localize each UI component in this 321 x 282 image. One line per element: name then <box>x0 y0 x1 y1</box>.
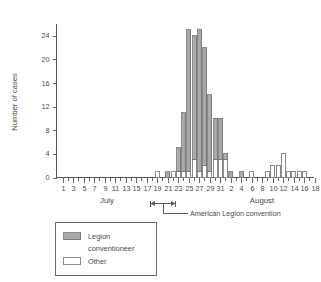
bar-segment-other <box>214 160 218 178</box>
bar-segment-conventioneer <box>177 148 181 172</box>
x-tick-label: 14 <box>291 184 299 193</box>
bar-segment-conventioneer <box>187 30 191 172</box>
x-tick-label: 19 <box>154 184 162 193</box>
chart-legend: Legion conventioneer Other <box>56 223 157 276</box>
bar-segment-other <box>224 160 228 178</box>
bar-segment-other <box>287 172 291 178</box>
bar-segment-conventioneer <box>214 118 218 159</box>
bar-segment-conventioneer <box>198 30 202 172</box>
y-axis-ticks: 04812162024 <box>42 31 57 182</box>
y-tick-label: 4 <box>46 149 50 158</box>
y-tick-label: 24 <box>42 31 50 40</box>
epidemic-curve-chart: Number of cases 04812162024 135791113151… <box>0 0 321 282</box>
bar-segment-conventioneer <box>182 113 186 172</box>
convention-bracket <box>151 201 189 214</box>
bar-segment-other <box>208 172 212 178</box>
legend-swatch-conventioneer <box>64 233 81 240</box>
legend-label-conventioneer-line1: Legion <box>88 232 110 241</box>
convention-annotation-label: American Legion convention <box>190 209 281 218</box>
x-tick-label: 5 <box>83 184 87 193</box>
x-tick-label: 23 <box>175 184 183 193</box>
bar-segment-other <box>271 166 275 178</box>
bar-segment-other <box>266 172 270 178</box>
bar-segment-conventioneer <box>224 154 228 160</box>
bar-segment-conventioneer <box>203 48 207 166</box>
x-tick-label: 11 <box>112 184 119 193</box>
legend-label-conventioneer-line2: conventioneer <box>88 244 135 253</box>
month-label-august: August <box>250 196 275 205</box>
x-tick-label: 27 <box>196 184 204 193</box>
bar-segment-other <box>203 166 207 178</box>
bar-segment-other <box>156 172 160 178</box>
y-tick-label: 16 <box>42 79 50 88</box>
x-tick-label: 21 <box>165 184 173 193</box>
y-tick-label: 0 <box>46 173 50 182</box>
x-tick-label: 25 <box>186 184 194 193</box>
epidemic-curve-figure: Number of cases 04812162024 135791113151… <box>0 0 321 282</box>
bar-segment-conventioneer <box>229 172 233 178</box>
bar-segment-other <box>182 172 186 178</box>
x-axis-ticks: 1357911131517192123252729312468101214161… <box>62 178 320 193</box>
y-tick-label: 20 <box>42 55 50 64</box>
x-tick-label: 4 <box>240 184 244 193</box>
x-tick-label: 13 <box>123 184 131 193</box>
bar-segment-conventioneer <box>208 95 212 172</box>
bar-segment-other <box>193 160 197 178</box>
x-tick-label: 15 <box>133 184 141 193</box>
bar-segment-conventioneer <box>219 118 223 159</box>
x-tick-label: 2 <box>230 184 234 193</box>
legend-label-other: Other <box>88 257 107 266</box>
bar-segment-other <box>187 172 191 178</box>
x-tick-label: 10 <box>270 184 278 193</box>
x-tick-label: 7 <box>93 184 97 193</box>
x-tick-label: 6 <box>251 184 255 193</box>
bar-segment-other <box>172 172 176 178</box>
bar-segment-other <box>282 154 286 178</box>
histogram-bars <box>156 30 307 178</box>
y-tick-label: 12 <box>42 102 50 111</box>
month-label-july: July <box>100 196 114 205</box>
x-tick-label: 3 <box>72 184 76 193</box>
bar-segment-other <box>292 172 296 178</box>
x-tick-label: 17 <box>144 184 152 193</box>
x-tick-label: 8 <box>261 184 265 193</box>
bar-segment-other <box>250 172 254 178</box>
bar-segment-other <box>198 172 202 178</box>
x-tick-label: 31 <box>217 184 225 193</box>
x-tick-label: 1 <box>62 184 66 193</box>
x-tick-label: 29 <box>207 184 215 193</box>
x-tick-label: 18 <box>312 184 320 193</box>
bar-segment-other <box>219 160 223 178</box>
bar-segment-other <box>177 172 181 178</box>
bar-segment-other <box>303 172 307 178</box>
bar-segment-conventioneer <box>193 36 197 160</box>
bar-segment-other <box>298 172 302 178</box>
x-tick-label: 9 <box>104 184 108 193</box>
bar-segment-other <box>277 166 281 178</box>
x-tick-label: 12 <box>280 184 288 193</box>
y-tick-label: 8 <box>46 126 50 135</box>
bar-segment-conventioneer <box>166 172 170 178</box>
legend-swatch-other <box>64 258 81 265</box>
x-tick-label: 16 <box>301 184 309 193</box>
y-axis-title: Number of cases <box>10 73 19 131</box>
bar-segment-conventioneer <box>240 172 244 178</box>
